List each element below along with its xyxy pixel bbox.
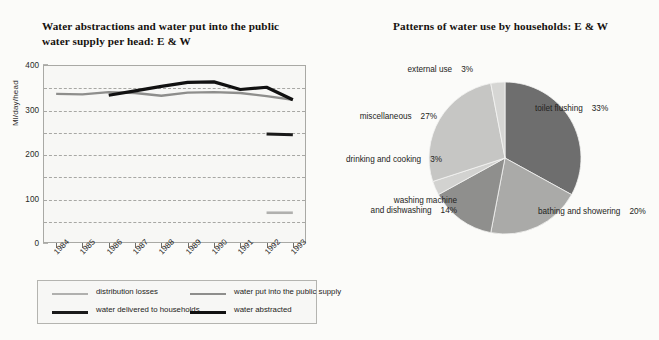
pie-slice-label: drinking and cooking3% bbox=[346, 155, 442, 165]
y-tick-label: 300 bbox=[11, 105, 39, 114]
line-series-group bbox=[43, 65, 306, 243]
line-chart-title: Water abstractions and water put into th… bbox=[42, 19, 307, 49]
y-tick-label: 100 bbox=[11, 194, 39, 203]
y-tick-label: 200 bbox=[11, 150, 39, 159]
legend-color-swatch bbox=[190, 311, 226, 314]
pie-label-percent: 20% bbox=[629, 207, 645, 217]
pie-label-percent: 3% bbox=[461, 65, 473, 75]
pie-slice-label: toilet flushing33% bbox=[535, 104, 608, 114]
pie-label-name: drinking and cooking bbox=[346, 155, 421, 164]
y-tick-label: 400 bbox=[11, 61, 39, 70]
figure-page: Water abstractions and water put into th… bbox=[0, 0, 659, 340]
pie-slice-label: miscellaneous27% bbox=[360, 112, 437, 122]
y-axis-ticks: 0100200300400 bbox=[5, 65, 39, 243]
pie-slice-label: washing machineand dishwashing14% bbox=[371, 196, 457, 216]
pie-chart-title: Patterns of water use by households: E &… bbox=[393, 19, 623, 34]
legend-color-swatch bbox=[52, 311, 88, 314]
line-series bbox=[267, 134, 293, 135]
pie-label-percent: 14% bbox=[441, 206, 457, 216]
x-axis-ticks: 1984198519861987198819891990199119921993 bbox=[43, 243, 306, 283]
legend-label: water put into the public supply bbox=[234, 287, 344, 297]
legend-label: distribution losses bbox=[96, 287, 206, 297]
pie-slice-label: bathing and showering20% bbox=[538, 207, 646, 217]
y-tick-label: 0 bbox=[11, 239, 39, 248]
pie-label-name: external use bbox=[408, 65, 453, 74]
pie-label-percent: 33% bbox=[592, 104, 608, 114]
pie-label-name: toilet flushing bbox=[535, 104, 583, 113]
legend-color-swatch bbox=[52, 293, 88, 295]
pie-chart-panel: Patterns of water use by households: E &… bbox=[345, 0, 659, 340]
line-series bbox=[56, 92, 293, 100]
line-chart-panel: Water abstractions and water put into th… bbox=[0, 0, 345, 340]
pie-label-name: miscellaneous bbox=[360, 112, 412, 121]
pie-label-name: bathing and showering bbox=[538, 207, 620, 216]
pie-label-percent: 27% bbox=[421, 112, 437, 122]
line-chart-legend: distribution losseswater put into the pu… bbox=[37, 280, 317, 324]
legend-label: water abstracted bbox=[234, 305, 344, 315]
pie-slice-label: external use3% bbox=[408, 65, 473, 75]
pie-label-percent: 3% bbox=[430, 155, 442, 165]
legend-color-swatch bbox=[190, 293, 226, 295]
